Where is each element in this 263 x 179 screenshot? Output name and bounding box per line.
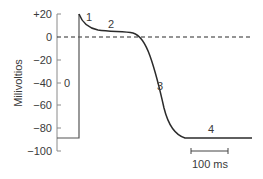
tick-label-plus20: +20 — [33, 8, 52, 20]
scale-bar-label: 100 ms — [192, 158, 229, 170]
phase-label-0: 0 — [64, 77, 70, 89]
tick-label-minus100: −100 — [27, 145, 52, 157]
tick-label-minus60: −60 — [33, 99, 52, 111]
phase-label-2: 2 — [108, 18, 114, 30]
phase-label-4: 4 — [208, 123, 214, 135]
phase-label-1: 1 — [86, 11, 92, 23]
tick-label-minus40: −40 — [33, 77, 52, 89]
tick-label-0: 0 — [46, 31, 52, 43]
phase-label-3: 3 — [157, 80, 163, 92]
tick-label-minus80: −80 — [33, 122, 52, 134]
tick-label-minus20: −20 — [33, 54, 52, 66]
action-potential-curve — [79, 14, 252, 138]
time-scale-bar — [191, 148, 228, 154]
y-axis-label: Milivoltios — [12, 59, 24, 107]
action-potential-chart: Milivoltios +20 0 −20 −40 −60 −80 −100 0… — [0, 0, 263, 179]
phase-0-upstroke — [57, 14, 79, 138]
y-axis-ticks — [57, 14, 61, 151]
